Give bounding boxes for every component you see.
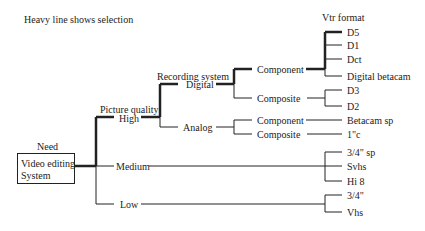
root-node[interactable]: Video editing System [17, 153, 75, 184]
format-svhs[interactable]: Svhs [347, 161, 366, 172]
root-heading: Need [37, 141, 58, 152]
format-heading: Vtr format [322, 12, 365, 23]
format-1c[interactable]: 1"c [347, 129, 361, 140]
format-dct[interactable]: Dct [347, 54, 361, 65]
format-hi8[interactable]: Hi 8 [347, 176, 365, 187]
root-label-line1: Video editing [21, 158, 75, 169]
format-d2[interactable]: D2 [347, 101, 359, 112]
node-digital-component[interactable]: Component [257, 64, 304, 75]
format-betacam-sp[interactable]: Betacam sp [347, 115, 393, 126]
node-analog[interactable]: Analog [183, 122, 212, 133]
node-analog-component[interactable]: Component [257, 115, 304, 126]
format-vhs[interactable]: Vhs [347, 207, 363, 218]
node-analog-composite[interactable]: Composite [257, 129, 300, 140]
node-high[interactable]: High [119, 113, 139, 124]
node-low[interactable]: Low [120, 199, 138, 210]
node-digital-composite[interactable]: Composite [257, 93, 300, 104]
format-d5[interactable]: D5 [347, 27, 359, 38]
format-34-sp[interactable]: 3/4" sp [347, 147, 375, 158]
root-label-line2: System [21, 170, 50, 181]
node-digital[interactable]: Digital [186, 79, 214, 90]
format-digital-betacam[interactable]: Digital betacam [347, 71, 411, 82]
format-d3[interactable]: D3 [347, 85, 359, 96]
format-34[interactable]: 3/4" [347, 190, 364, 201]
caption: Heavy line shows selection [24, 14, 133, 25]
format-d1[interactable]: D1 [347, 40, 359, 51]
node-medium[interactable]: Medium [116, 161, 150, 172]
